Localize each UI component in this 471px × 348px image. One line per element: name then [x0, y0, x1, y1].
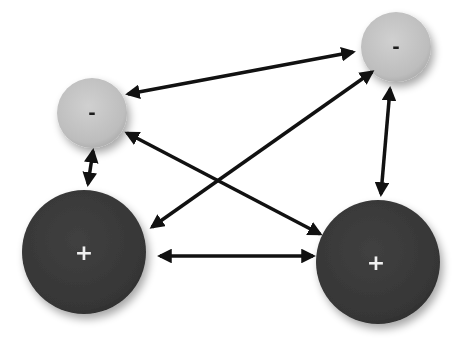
node-negative-left: -	[57, 78, 127, 148]
arrow-neg-left-to-pos-right	[127, 133, 320, 234]
node-positive-right: +	[316, 200, 440, 324]
arrow-neg-left-to-neg-right	[128, 52, 353, 94]
node-positive-left: +	[22, 190, 146, 314]
charge-diagram: - - + +	[0, 0, 471, 348]
charge-label: -	[392, 36, 399, 57]
arrow-neg-left-to-pos-left	[88, 151, 93, 184]
charge-label: +	[367, 250, 385, 275]
charge-label: -	[88, 102, 95, 123]
arrow-neg-right-to-pos-right	[381, 89, 390, 194]
charge-label: +	[75, 240, 93, 265]
